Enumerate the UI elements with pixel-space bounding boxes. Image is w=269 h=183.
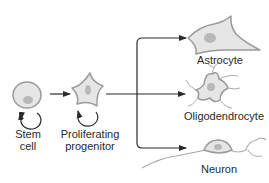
progenitor-label-line1: Proliferating — [58, 128, 122, 140]
stem-cell-label: Stem cell — [9, 128, 47, 152]
stem-self-renew-icon — [21, 113, 41, 129]
progenitor-label-line2: progenitor — [58, 140, 122, 152]
progenitor-label: Proliferating progenitor — [58, 128, 122, 152]
progenitor-self-renew-icon — [78, 112, 98, 126]
stem-cell-label-line2: cell — [9, 140, 47, 152]
astrocyte-label: Astrocyte — [190, 54, 250, 66]
oligodendrocyte-shape — [186, 62, 240, 108]
astrocyte-label-text: Astrocyte — [190, 54, 250, 66]
progenitor-shape — [72, 73, 103, 106]
oligodendrocyte-label-text: Oligodendrocyte — [180, 110, 268, 122]
neuron-label-text: Neuron — [194, 163, 244, 175]
diagram-canvas — [0, 0, 269, 183]
astrocyte-shape — [188, 16, 260, 54]
stem-cell-shape — [13, 82, 41, 108]
stem-cell-label-line1: Stem — [9, 128, 47, 140]
oligodendrocyte-label: Oligodendrocyte — [180, 110, 268, 122]
neuron-label: Neuron — [194, 163, 244, 175]
